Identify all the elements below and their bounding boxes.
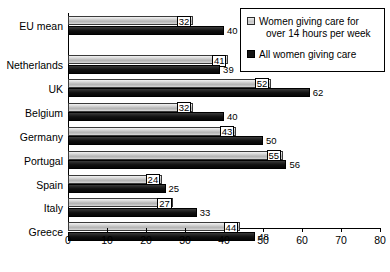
bar-value-label: 40 — [226, 26, 239, 36]
bar-over14h — [68, 127, 236, 136]
x-axis-tick — [107, 228, 108, 232]
legend-label-over-14-hours: Women giving care for over 14 hours per … — [259, 16, 371, 39]
category-label: Spain — [0, 180, 63, 191]
bar-value-label: 33 — [199, 208, 212, 218]
category-label: Netherlands — [0, 60, 63, 71]
x-axis-tick — [224, 228, 225, 232]
category-label: UK — [0, 84, 63, 95]
bar-value-label: 25 — [168, 184, 181, 194]
legend-label-line1: Women giving care for — [259, 16, 359, 27]
x-axis-tick-label: 40 — [211, 234, 237, 246]
category-label: Belgium — [0, 108, 63, 119]
x-axis-tick-label: 20 — [133, 234, 159, 246]
bar-value-label: 56 — [288, 160, 301, 170]
bar-over14h — [68, 79, 271, 88]
bar-over14h — [68, 16, 193, 25]
bar-allwomen — [68, 136, 263, 145]
x-axis-tick — [341, 228, 342, 232]
x-axis-tick-label: 70 — [328, 234, 354, 246]
x-axis-tick — [146, 228, 147, 232]
category-label: Italy — [0, 203, 63, 214]
bar-allwomen — [68, 88, 310, 97]
bar-allwomen — [68, 208, 197, 217]
bar-over14h — [68, 222, 240, 231]
bar-chart: EU mean3240Netherlands4139UK5262Belgium3… — [0, 0, 390, 272]
bar-value-label: 62 — [312, 88, 325, 98]
bar-allwomen — [68, 65, 220, 74]
x-axis-tick — [302, 228, 303, 232]
category-label: Germany — [0, 132, 63, 143]
legend-swatch-dark-icon — [247, 50, 255, 58]
x-axis-tick — [185, 228, 186, 232]
legend-swatch-light-icon — [247, 17, 255, 25]
x-axis-tick-label: 50 — [250, 234, 276, 246]
x-axis-tick-label: 60 — [289, 234, 315, 246]
bar-allwomen — [68, 184, 166, 193]
bar-value-label: 39 — [222, 65, 235, 75]
category-label: EU mean — [0, 21, 63, 32]
x-axis-tick — [263, 228, 264, 232]
bar-allwomen — [68, 26, 224, 35]
legend-label-line1: All women giving care — [259, 49, 356, 60]
bar-value-label: 50 — [265, 136, 278, 146]
bar-over14h — [68, 55, 228, 64]
legend-item-all-women: All women giving care — [247, 49, 356, 61]
x-axis-tick-label: 30 — [172, 234, 198, 246]
legend-label-all-women: All women giving care — [259, 49, 356, 61]
category-label: Greece — [0, 227, 63, 238]
legend-item-over-14-hours: Women giving care for over 14 hours per … — [247, 16, 371, 39]
x-axis-tick — [380, 228, 381, 232]
bar-allwomen — [68, 160, 286, 169]
bar-value-label: 40 — [226, 112, 239, 122]
x-axis-tick-label: 10 — [94, 234, 120, 246]
x-axis-tick-label: 0 — [55, 234, 81, 246]
bar-allwomen — [68, 112, 224, 121]
category-label: Portugal — [0, 156, 63, 167]
bar-over14h — [68, 151, 283, 160]
x-axis-tick-label: 80 — [367, 234, 390, 246]
legend-label-line2: over 14 hours per week — [259, 28, 371, 40]
bar-over14h — [68, 103, 193, 112]
chart-legend: Women giving care for over 14 hours per … — [240, 8, 385, 72]
